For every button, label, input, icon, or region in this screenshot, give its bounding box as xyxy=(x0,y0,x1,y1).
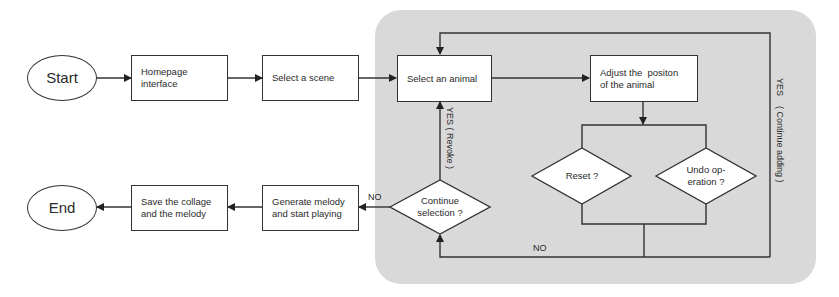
reset-text: Reset ? xyxy=(566,170,599,182)
select-scene-label: Select a scene xyxy=(272,72,334,84)
yes-continue-adding-label: YES ( Continue adding ) xyxy=(775,78,785,183)
save-line-1: Save the collage xyxy=(141,196,211,208)
connector-lines xyxy=(0,0,839,297)
undo-line-1: Undo op- xyxy=(686,164,725,176)
end-terminal: End xyxy=(27,185,97,231)
save-collage-box: Save the collage and the melody xyxy=(131,185,228,231)
select-animal-box: Select an animal xyxy=(397,55,492,102)
continue-selection-label: Continue selection ? xyxy=(400,194,480,220)
homepage-line-1: Homepage xyxy=(141,66,187,78)
generate-line-2: and start playing xyxy=(272,208,345,220)
no-left-label: NO xyxy=(368,192,382,202)
homepage-line-2: interface xyxy=(141,78,187,90)
continue-line-2: selection ? xyxy=(417,207,462,219)
undo-label: Undo op- eration ? xyxy=(666,164,746,188)
save-line-2: and the melody xyxy=(141,208,211,220)
start-terminal: Start xyxy=(27,55,97,101)
reset-label: Reset ? xyxy=(542,164,622,188)
select-scene-box: Select a scene xyxy=(262,55,359,101)
adjust-line-1: Adjust the positon xyxy=(600,67,678,79)
generate-line-1: Generate melody xyxy=(272,196,345,208)
continue-line-1: Continue xyxy=(417,195,462,207)
undo-line-2: eration ? xyxy=(686,176,725,188)
yes-revoke-label: YES ( Revoke ) xyxy=(445,107,455,169)
adjust-line-2: of the animal xyxy=(600,79,678,91)
select-animal-label: Select an animal xyxy=(407,73,477,85)
generate-melody-box: Generate melody and start playing xyxy=(262,185,359,231)
end-label: End xyxy=(49,202,76,214)
start-label: Start xyxy=(46,72,78,84)
homepage-interface-box: Homepage interface xyxy=(131,55,228,101)
adjust-position-box: Adjust the positon of the animal xyxy=(590,55,698,102)
no-bottom-label: NO xyxy=(533,243,547,253)
